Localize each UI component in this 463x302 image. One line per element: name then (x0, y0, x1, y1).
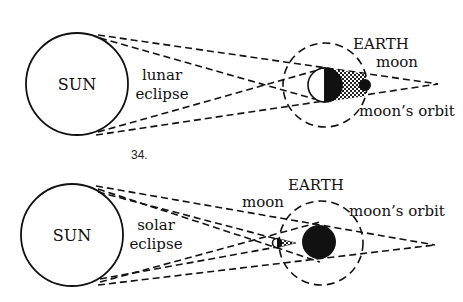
moon-circle (273, 239, 282, 248)
solar-eclipse-diagram: 34. SUN solar eclipse (21, 148, 445, 286)
eclipse-label-line1: solar (137, 216, 175, 234)
figure-number-33: 33. (131, 0, 149, 1)
earth-circle (302, 225, 336, 259)
moon-circle (359, 79, 371, 91)
earth-circle (308, 68, 342, 102)
moon-orbit-label: moon’s orbit (349, 202, 445, 220)
lunar-eclipse-diagram: 33. SUN lunar eclipse EA (26, 0, 455, 135)
eclipse-label-line2: eclipse (129, 235, 182, 253)
sun-label: SUN (58, 75, 96, 94)
eclipse-diagrams: 33. SUN lunar eclipse EA (0, 0, 463, 302)
eclipse-label-line2: eclipse (135, 85, 188, 103)
sun-label: SUN (53, 226, 91, 245)
earth-label: EARTH (353, 35, 409, 53)
moon-orbit-label: moon’s orbit (359, 102, 455, 120)
moon-shadow-umbra (280, 239, 296, 247)
figure-number-34: 34. (131, 148, 148, 162)
moon-label: moon (242, 193, 284, 211)
penumbra-line-bottom (98, 68, 325, 132)
penumbra-line-top (100, 38, 325, 102)
eclipse-label-line1: lunar (142, 66, 183, 84)
moon-label: moon (376, 53, 418, 71)
earth-label: EARTH (288, 176, 344, 194)
